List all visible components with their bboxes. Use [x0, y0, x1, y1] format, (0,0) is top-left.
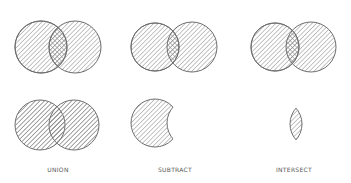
label-intersect-text: Intersect	[276, 166, 312, 173]
subtract-shape	[131, 99, 215, 147]
venn-pair-1	[15, 21, 101, 73]
label-intersect: Intersect	[276, 166, 312, 173]
label-subtract-text: Subtract	[158, 166, 192, 173]
intersect-shape	[254, 100, 338, 148]
venn-pair-3	[251, 22, 336, 72]
label-union: Union	[47, 166, 68, 173]
label-subtract: Subtract	[158, 166, 192, 173]
union-shape	[15, 100, 99, 150]
boolean-operations-diagram	[0, 0, 351, 183]
venn-pair-2	[131, 22, 217, 72]
label-union-text: Union	[47, 166, 68, 173]
